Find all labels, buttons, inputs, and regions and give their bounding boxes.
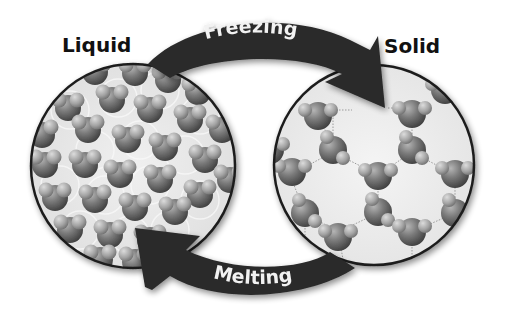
phase-change-diagram: Freezing Melting Liquid Solid <box>0 0 506 319</box>
liquid-label: Liquid <box>62 33 131 57</box>
liquid-circle <box>26 57 247 276</box>
melting-label: Melting <box>212 260 294 288</box>
solid-label: Solid <box>384 34 440 58</box>
